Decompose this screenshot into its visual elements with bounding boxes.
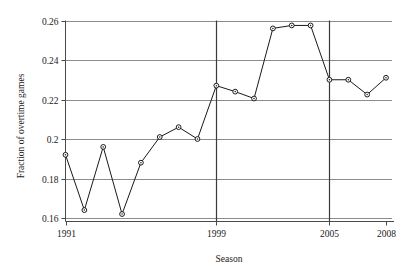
data-point-center-1993 bbox=[102, 146, 104, 148]
data-point-center-2005 bbox=[329, 79, 331, 81]
data-point-center-2006 bbox=[348, 79, 350, 81]
y-tick-label-0.24: 0.24 bbox=[42, 56, 59, 66]
y-axis-label: Fraction of overtime games bbox=[16, 73, 26, 178]
data-point-center-1991 bbox=[65, 154, 67, 156]
data-point-center-2001 bbox=[253, 98, 255, 100]
chart-container: 0.160.180.20.220.240.26 1991199920052008… bbox=[0, 0, 411, 270]
data-point-center-2000 bbox=[234, 91, 236, 93]
x-axis-label: Season bbox=[216, 254, 243, 264]
y-tick-label-0.2: 0.2 bbox=[47, 135, 59, 145]
x-tick-label-1991: 1991 bbox=[57, 229, 76, 239]
data-point-center-1998 bbox=[197, 138, 199, 140]
data-point-center-1996 bbox=[159, 136, 161, 138]
data-point-center-2004 bbox=[310, 25, 312, 27]
data-point-center-1992 bbox=[84, 209, 86, 211]
y-tick-label-0.18: 0.18 bbox=[42, 175, 59, 185]
data-point-center-1997 bbox=[178, 126, 180, 128]
data-point-center-1994 bbox=[121, 213, 123, 215]
x-tick-label-2008: 2008 bbox=[377, 229, 396, 239]
data-point-center-1999 bbox=[216, 85, 218, 87]
data-point-center-2003 bbox=[291, 25, 293, 27]
y-tick-label-0.22: 0.22 bbox=[42, 96, 59, 106]
data-point-center-1995 bbox=[140, 162, 142, 164]
y-tick-label-0.16: 0.16 bbox=[42, 214, 59, 224]
data-point-center-2008 bbox=[385, 77, 387, 79]
data-point-center-2007 bbox=[366, 94, 368, 96]
x-tick-label-1999: 1999 bbox=[207, 229, 226, 239]
data-point-center-2002 bbox=[272, 28, 274, 30]
y-tick-label-0.26: 0.26 bbox=[42, 17, 59, 27]
line-chart: 0.160.180.20.220.240.26 1991199920052008… bbox=[0, 0, 411, 270]
x-tick-label-2005: 2005 bbox=[320, 229, 339, 239]
